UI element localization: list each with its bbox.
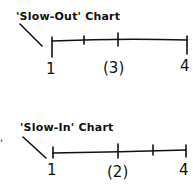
timeline-top (52, 39, 187, 41)
slow-out-label-end: 4 (180, 57, 190, 75)
slow-out-label-middle: (3) (103, 59, 124, 77)
slow-in-label-end: 4 (179, 161, 189, 179)
timeline-bottom (53, 150, 186, 153)
pointer-line-bottom (23, 137, 46, 158)
slow-in-label-start: 1 (47, 161, 57, 179)
slow-in-label-middle: (2) (107, 163, 128, 181)
slow-in-chart-title: 'Slow-In' Chart (20, 121, 113, 134)
slow-out-chart-title: 'Slow-Out' Chart (16, 10, 120, 23)
pointer-line-top (20, 24, 42, 46)
diagram-lines (0, 0, 193, 194)
slow-out-label-start: 1 (46, 60, 56, 78)
edge-fragment: , (0, 132, 3, 143)
